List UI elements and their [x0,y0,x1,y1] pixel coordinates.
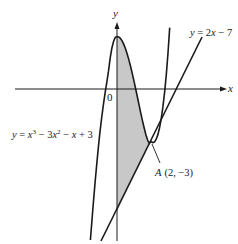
y-axis-arrow-icon [115,22,120,29]
cubic-equation-label: y = x3 − 3x2 − x + 3 [11,128,93,140]
point-a-pointer [152,144,160,163]
diagram-canvas: y x 0 y = 2x − 7 y = x3 − 3x2 − x + 3 A(… [0,0,238,244]
y-axis-label: y [112,7,118,19]
line-equation-label: y = 2x − 7 [189,27,232,38]
tangent-line [101,37,202,241]
x-axis-arrow-icon [220,87,227,92]
origin-label: 0 [107,91,113,103]
shaded-region [117,37,151,212]
point-a-label: A(2, −3) [154,167,194,179]
x-axis-label: x [227,82,233,94]
